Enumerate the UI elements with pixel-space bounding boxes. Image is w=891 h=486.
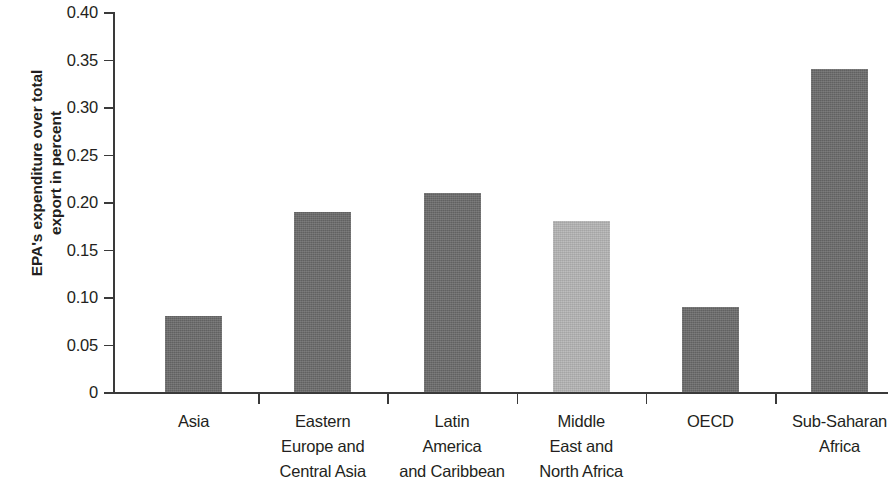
bar <box>682 307 739 393</box>
x-axis-tick-mark <box>517 393 519 404</box>
bar-fill <box>294 212 351 393</box>
x-axis-category-label: Middle East and North Africa <box>513 409 650 484</box>
x-axis-category-label: Latin America and Caribbean <box>383 409 520 484</box>
x-axis-tick-mark <box>387 393 389 404</box>
bar <box>553 221 610 392</box>
x-axis-tick-mark <box>646 393 648 404</box>
bar <box>165 316 222 392</box>
x-axis-tick-mark <box>258 393 260 404</box>
bar-fill <box>682 307 739 393</box>
x-axis-tick-mark <box>775 393 777 404</box>
x-axis-category-label: Sub-Saharan Africa <box>771 409 891 459</box>
bar <box>424 193 481 393</box>
bar <box>811 69 868 392</box>
x-axis-category-label: OECD <box>642 409 779 434</box>
bar-fill <box>424 193 481 393</box>
bar <box>294 212 351 393</box>
x-axis-category-label: Asia <box>125 409 262 434</box>
x-axis-category-label: Eastern Europe and Central Asia <box>254 409 391 484</box>
bar-chart: EPA's expenditure over total export in p… <box>0 0 891 486</box>
bar-fill <box>811 69 868 392</box>
bar-fill <box>553 221 610 392</box>
bar-fill <box>165 316 222 392</box>
plot-area <box>0 0 891 393</box>
